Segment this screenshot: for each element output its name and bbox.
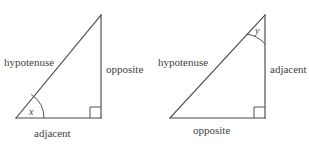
left-triangle-group: hypotenuse opposite adjacent x	[4, 15, 143, 139]
right-triangle-figure-svg: hypotenuse opposite adjacent x hypotenus…	[0, 0, 309, 145]
left-triangle-adjacent-label: adjacent	[34, 127, 71, 139]
right-triangle-adjacent-label: adjacent	[270, 63, 307, 75]
right-triangle-right-angle-marker	[254, 107, 265, 118]
left-triangle-angle-x-label: x	[28, 106, 34, 117]
right-triangle-angle-y-label: y	[254, 25, 260, 36]
right-triangle-group: hypotenuse adjacent opposite y	[158, 15, 307, 136]
right-triangle-hypotenuse-label: hypotenuse	[158, 56, 208, 68]
left-triangle-hypotenuse-label: hypotenuse	[4, 56, 54, 68]
left-triangle-opposite-label: opposite	[106, 63, 143, 75]
trigonometry-diagram: hypotenuse opposite adjacent x hypotenus…	[0, 0, 309, 145]
right-triangle-opposite-label: opposite	[193, 124, 230, 136]
left-triangle-right-angle-marker	[90, 107, 101, 118]
